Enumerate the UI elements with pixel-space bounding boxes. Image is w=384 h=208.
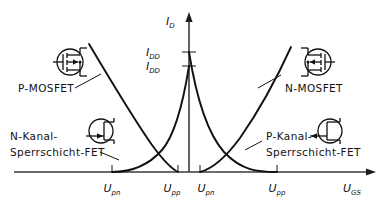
label-p-kanal-line2: Sperrschicht-FET [266,146,361,158]
gate-arrow-icon [97,133,103,139]
leader-p-jfet [245,141,262,150]
y-tick-label-idd-lower: IDD [146,60,161,75]
axis-label-group: ID UGS IDD IDD Upn Upp Upn Upp [104,15,362,197]
jfet-symbol-n [86,118,114,144]
label-n-mosfet: N-MOSFET [285,82,343,94]
x-tick-label-upp-right: Upp [269,182,287,197]
curve-group [89,44,291,172]
label-p-mosfet: P-MOSFET [18,82,74,94]
y-axis-label: ID [166,15,175,30]
bulk-arrow-icon [310,59,315,65]
mosfet-symbol-n [301,48,335,76]
p-channel-jfet-fall [189,52,277,172]
x-axis-arrowhead [366,168,376,175]
label-p-kanal-line1: P-Kanal- [266,130,312,142]
x-tick-label-upn-right: Upn [198,182,215,197]
x-axis-label: UGS [343,182,361,197]
label-n-kanal-line2: Sperrschicht-FET [10,146,105,158]
transfer-characteristic-diagram: ID UGS IDD IDD Upn Upp Upn Upp [0,0,384,208]
label-n-kanal-line1: N-Kanal- [10,130,58,142]
leader-p-mosfet [75,74,101,88]
leader-n-mosfet [258,75,281,88]
x-tick-label-upn-left: Upn [104,182,121,197]
y-tick-label-idd-upper: IDD [146,46,161,61]
n-channel-jfet-rise [112,66,189,172]
figure-canvas: ID UGS IDD IDD Upn Upp Upn Upp [0,0,384,208]
x-tick-label-upp-left: Upp [164,182,182,197]
y-axis-arrowhead [185,12,192,22]
mosfet-symbol-p [53,48,87,76]
bulk-arrow-icon [73,59,78,65]
jfet-symbol-p [310,118,342,144]
